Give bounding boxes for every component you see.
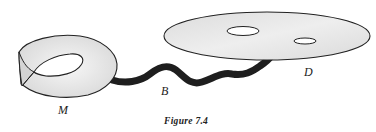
label-D: D [304, 66, 313, 78]
label-B: B [161, 85, 168, 97]
disk-hole-left [227, 27, 259, 36]
disk-D [164, 12, 370, 60]
mobius-band-M [19, 35, 117, 97]
figure-drawing [0, 0, 376, 132]
figure-7-4: M B D Figure 7.4 [0, 0, 376, 132]
disk-hole-right [294, 38, 316, 44]
label-M: M [58, 104, 68, 116]
figure-caption: Figure 7.4 [164, 116, 208, 126]
